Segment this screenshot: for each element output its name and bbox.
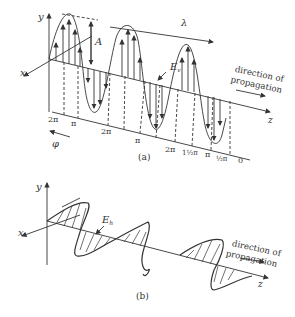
field-label-a: Ev bbox=[169, 61, 181, 73]
caption-a: (a) bbox=[138, 152, 150, 162]
svg-text:π: π bbox=[135, 136, 140, 145]
field-label-b: Eh bbox=[101, 214, 113, 226]
tangent-line bbox=[62, 198, 80, 207]
amplitude-label: A bbox=[94, 36, 102, 47]
drop-lines bbox=[62, 14, 230, 155]
panel-a bbox=[24, 14, 270, 160]
svg-text:½π: ½π bbox=[216, 155, 228, 163]
x-label-a: x bbox=[20, 67, 26, 78]
svg-text:2π: 2π bbox=[101, 127, 111, 136]
z-label-b: z bbox=[257, 279, 263, 289]
svg-text:π: π bbox=[205, 150, 210, 159]
propagation-arrow-a bbox=[236, 90, 265, 96]
y-label-b: y bbox=[35, 181, 42, 192]
field-pointer-b bbox=[96, 226, 104, 234]
wavelength-label: λ bbox=[180, 17, 187, 28]
panel-b bbox=[22, 183, 268, 290]
x-label-b: x bbox=[18, 227, 24, 238]
svg-text:0: 0 bbox=[238, 156, 243, 165]
em-wave-diagram: y x z A λ Ev direction of propagation φ … bbox=[0, 0, 295, 317]
wavelength-arrow bbox=[110, 27, 213, 42]
caption-b: (b) bbox=[136, 291, 149, 301]
phase-arrow bbox=[50, 131, 70, 137]
svg-text:2π: 2π bbox=[165, 145, 175, 154]
svg-text:1½π: 1½π bbox=[182, 149, 198, 157]
svg-text:π: π bbox=[71, 119, 76, 128]
svg-text:2π: 2π bbox=[48, 115, 58, 124]
phase-label: φ bbox=[52, 138, 59, 149]
horizontal-wave-curve-2 bbox=[114, 222, 149, 276]
z-label-a: z bbox=[267, 115, 273, 125]
field-pointer-a bbox=[158, 72, 166, 80]
y-label-a: y bbox=[37, 11, 44, 22]
